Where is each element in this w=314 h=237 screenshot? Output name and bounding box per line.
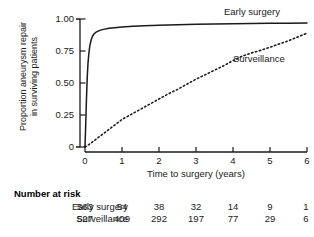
series-annotation-early-surgery: Early surgery	[224, 6, 280, 17]
x-tick-label: 4	[223, 156, 243, 166]
x-tick-label: 0	[75, 156, 95, 166]
x-tick-label: 2	[149, 156, 169, 166]
table-row: Early surgery 563 54 38 32 14 9 1	[0, 201, 314, 213]
number-at-risk-title: Number at risk	[14, 188, 81, 199]
risk-cell: 1	[293, 201, 314, 213]
x-axis-title: Time to surgery (years)	[85, 168, 307, 179]
table-row: Surveillance 527 409 292 197 77 29 6	[0, 213, 314, 225]
risk-cell: 6	[293, 213, 314, 225]
x-axis-tick-labels: 0 1 2 3 4 5 6	[0, 0, 314, 186]
x-tick-label: 1	[112, 156, 132, 166]
chart-plot-region: Proportion aneurysm repair in surviving …	[0, 0, 314, 186]
risk-cell: 409	[109, 213, 135, 225]
risk-cell: 29	[257, 213, 283, 225]
number-at-risk-table: Number at risk Early surgery 563 54 38 3…	[0, 186, 314, 237]
risk-cell: 77	[220, 213, 246, 225]
x-tick-label: 6	[297, 156, 314, 166]
risk-cell: 292	[146, 213, 172, 225]
risk-cell: 32	[183, 201, 209, 213]
risk-cell: 38	[146, 201, 172, 213]
x-tick-label: 3	[186, 156, 206, 166]
figure-container: Proportion aneurysm repair in surviving …	[0, 0, 314, 237]
risk-cell: 9	[257, 201, 283, 213]
series-annotation-surveillance: Surveillance	[233, 53, 285, 64]
x-tick-label: 5	[260, 156, 280, 166]
risk-cell: 563	[72, 201, 98, 213]
risk-cell: 527	[72, 213, 98, 225]
risk-cell: 14	[220, 201, 246, 213]
risk-cell: 54	[109, 201, 135, 213]
risk-cell: 197	[183, 213, 209, 225]
